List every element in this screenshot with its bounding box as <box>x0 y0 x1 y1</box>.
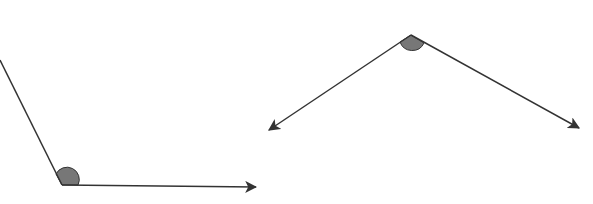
left-angle-arc-mark <box>56 167 79 185</box>
angle-diagram <box>0 0 593 204</box>
left-angle-ray-horizontal-arrow <box>62 185 256 187</box>
diagram-svg <box>0 0 593 204</box>
right-angle-ray-left-arrow <box>269 35 411 130</box>
left-angle-ray-upper <box>0 60 62 185</box>
right-angle-arc-mark <box>400 35 424 51</box>
right-angle-ray-right-arrow <box>411 35 579 128</box>
right-angle <box>269 35 579 130</box>
left-angle <box>0 60 256 187</box>
